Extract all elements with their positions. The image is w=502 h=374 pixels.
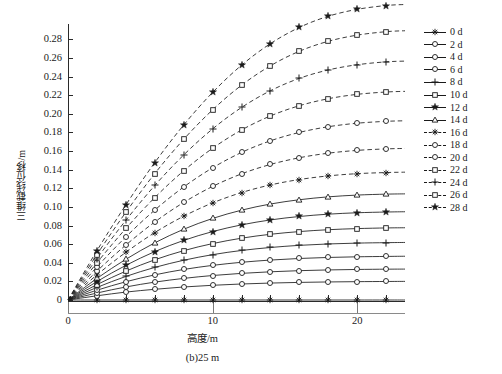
data-point-marker: [383, 253, 390, 260]
legend-item[interactable]: 8 d: [424, 76, 502, 89]
data-point-marker: [296, 279, 303, 286]
data-point-marker: [180, 121, 187, 128]
legend-label: 20 d: [446, 153, 468, 163]
data-point-marker: [325, 38, 332, 45]
data-point-marker: [238, 149, 245, 156]
legend-marker-icon: [432, 104, 439, 111]
data-point-marker: [209, 106, 216, 113]
data-point-marker: [354, 266, 361, 273]
data-point-marker: [383, 145, 390, 152]
data-point-marker: [383, 209, 390, 216]
data-point-marker: [296, 48, 303, 55]
data-point-marker: [354, 225, 361, 232]
legend-label: 6 d: [446, 65, 463, 75]
data-point-marker: [238, 189, 245, 196]
data-point-marker: [209, 145, 216, 152]
data-point-marker: [267, 87, 274, 94]
y-axis-tick-label: 0.08: [0, 221, 62, 232]
legend-swatch: [424, 202, 446, 213]
legend-marker-icon: [432, 204, 439, 211]
data-point-marker: [383, 278, 390, 285]
legend-item[interactable]: 10 d: [424, 89, 502, 102]
data-point-marker: [180, 247, 187, 254]
data-point-marker: [383, 266, 390, 273]
y-axis-tick-label: 0.12: [0, 183, 62, 194]
data-point-marker: [296, 255, 303, 262]
data-point-marker: [122, 262, 129, 269]
data-point-marker: [325, 266, 332, 273]
legend-item[interactable]: 22 d: [424, 164, 502, 177]
data-point-marker: [180, 283, 187, 290]
data-point-marker: [209, 89, 216, 96]
legend-item[interactable]: 18 d: [424, 139, 502, 152]
legend-item[interactable]: 12 d: [424, 101, 502, 114]
data-point-marker: [238, 82, 245, 89]
data-point-marker: [180, 257, 187, 264]
data-point-marker: [151, 297, 158, 304]
data-point-marker: [296, 24, 303, 31]
y-axis-title: 三维截线位移/m: [14, 150, 29, 221]
data-point-marker: [238, 259, 245, 266]
data-point-marker: [354, 209, 361, 216]
y-axis-tick-label: 0: [0, 295, 62, 306]
x-axis-tick: [68, 302, 69, 313]
data-point-marker: [122, 297, 129, 304]
data-point-marker: [267, 112, 274, 119]
data-point-marker: [383, 58, 390, 65]
x-axis-tick-label: 20: [332, 316, 382, 327]
data-point-marker: [180, 237, 187, 244]
legend-item[interactable]: 28 d: [424, 202, 502, 215]
data-point-marker: [267, 62, 274, 69]
data-point-marker: [383, 118, 390, 125]
y-axis-tick-label: 0.04: [0, 258, 62, 269]
data-point-marker: [296, 176, 303, 183]
data-point-marker: [325, 13, 332, 20]
legend-swatch: [424, 27, 446, 38]
data-point-marker: [238, 170, 245, 177]
legend-item[interactable]: 14 d: [424, 114, 502, 127]
data-point-marker: [325, 123, 332, 130]
legend-swatch: [424, 127, 446, 138]
data-point-marker: [151, 256, 158, 263]
legend-item[interactable]: 2 d: [424, 39, 502, 52]
data-point-marker: [238, 247, 245, 254]
legend-label: 0 d: [446, 27, 463, 37]
legend-label: 26 d: [446, 190, 468, 200]
legend-item[interactable]: 24 d: [424, 177, 502, 190]
legend-swatch: [424, 52, 446, 63]
legend-item[interactable]: 4 d: [424, 51, 502, 64]
data-point-marker: [238, 207, 245, 214]
data-point-marker: [325, 240, 332, 247]
legend-item[interactable]: 20 d: [424, 151, 502, 164]
data-point-marker: [180, 213, 187, 220]
data-point-marker: [209, 262, 216, 269]
data-point-marker: [325, 150, 332, 157]
data-point-marker: [383, 28, 390, 35]
legend-swatch: [424, 90, 446, 101]
data-point-marker: [383, 89, 390, 96]
legend-item[interactable]: 0 d: [424, 26, 502, 39]
legend-marker-icon: [432, 129, 439, 136]
data-point-marker: [238, 126, 245, 133]
x-axis-tick-label: 10: [188, 316, 238, 327]
legend-swatch: [424, 140, 446, 151]
data-point-marker: [325, 211, 332, 218]
data-point-marker: [325, 95, 332, 102]
data-point-marker: [267, 216, 274, 223]
legend-item[interactable]: 26 d: [424, 189, 502, 202]
data-point-marker: [354, 253, 361, 260]
data-point-marker: [267, 280, 274, 287]
x-axis-tick: [213, 302, 214, 313]
legend-item[interactable]: 16 d: [424, 126, 502, 139]
legend-item[interactable]: 6 d: [424, 64, 502, 77]
data-point-marker: [209, 164, 216, 171]
legend-marker-icon: [432, 166, 439, 173]
data-point-marker: [325, 254, 332, 261]
data-point-marker: [180, 266, 187, 273]
data-point-marker: [383, 239, 390, 246]
data-point-marker: [354, 147, 361, 154]
data-point-marker: [325, 66, 332, 73]
data-point-marker: [354, 6, 361, 13]
legend-marker-icon: [432, 66, 439, 73]
data-point-marker: [296, 242, 303, 249]
